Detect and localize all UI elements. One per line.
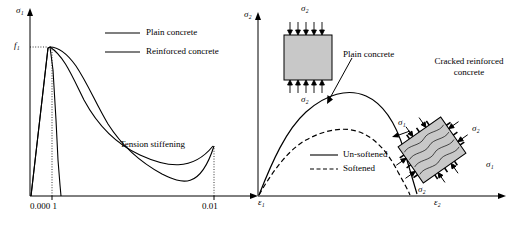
right-legend-item-softened: Softened xyxy=(343,164,375,173)
left-panel-axes xyxy=(27,8,258,200)
cracked-specimen-stress-bottom-right: σ₁ xyxy=(486,160,494,169)
left-y-axis-label: σ₁ xyxy=(16,6,24,15)
specimen-top-stress-label: σ₂ xyxy=(301,4,309,13)
right-panel-curves xyxy=(259,93,417,195)
callout-cracked-reinforced-concrete: Cracked reinforced concrete xyxy=(424,56,514,78)
left-panel-legend-lines xyxy=(105,33,140,52)
left-legend-item-reinforced-concrete: Reinforced concrete xyxy=(146,47,219,56)
left-y-tick-label: f₁ xyxy=(14,41,20,50)
right-legend-item-unsoftened: Un-softened xyxy=(343,150,388,159)
callout-plain-concrete: Plain concrete xyxy=(343,50,394,59)
specimen-bottom-stress-label: σ₂ xyxy=(301,95,309,104)
left-x-tick-1: 0.01 xyxy=(202,202,218,211)
left-x-tick-0: 0.000 1 xyxy=(30,202,57,211)
plain-concrete-specimen xyxy=(284,22,332,93)
cracked-specimen-stress-bottom-left: σ₂ xyxy=(418,185,426,194)
cracked-specimen-stress-top-left: σ₁ xyxy=(398,118,406,127)
cracked-reinforced-specimen xyxy=(381,100,482,199)
tension-stiffening-annotation: Tension stiffening xyxy=(120,140,185,149)
right-x-axis-label: ε₂ xyxy=(434,198,441,207)
right-y-axis-label: σ₂ xyxy=(244,10,252,19)
left-panel-curves xyxy=(31,47,214,196)
cracked-specimen-stress-top-right: σ₂ xyxy=(472,124,480,133)
left-legend-item-plain-concrete: Plain concrete xyxy=(146,28,197,37)
figure-container: σ₁ f₁ ε₁ 0.000 1 0.01 Plain concrete Rei… xyxy=(0,0,521,232)
left-x-axis-label: ε₁ xyxy=(258,198,265,207)
right-panel-legend-lines xyxy=(310,155,338,169)
